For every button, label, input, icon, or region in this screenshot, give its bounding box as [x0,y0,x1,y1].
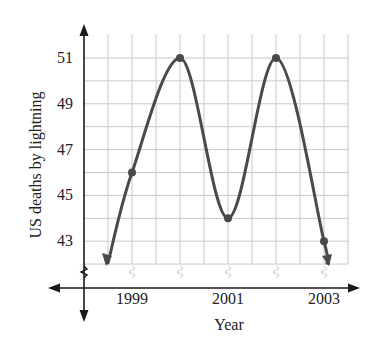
x-tick-label: 2003 [308,290,340,307]
y-axis-title: US deaths by lightning [27,91,45,238]
data-point [224,214,232,222]
x-tick-label: 1999 [116,290,148,307]
y-axis-down-arrow-icon [80,310,89,322]
data-point [272,54,280,62]
curve-path [108,58,329,264]
axis-break-icon [321,266,327,278]
x-tick-label: 2001 [212,290,244,307]
y-tick-label: 47 [57,141,73,158]
y-tick-label: 43 [57,232,73,249]
axis-break-icon [273,266,279,278]
y-axis-up-arrow-icon [80,24,89,36]
y-tick-labels: 4345474951 [57,49,73,249]
data-point [320,237,328,245]
axis-break-marks [81,266,327,278]
line-chart: 4345474951 199920012003 Year US deaths b… [0,0,373,350]
y-tick-label: 45 [57,186,73,203]
y-tick-label: 51 [57,49,73,66]
grid [84,34,348,264]
data-point [176,54,184,62]
data-point [128,169,136,177]
x-tick-labels: 199920012003 [116,290,340,307]
data-curve [102,54,332,266]
axis-break-icon [177,266,183,278]
x-axis-left-arrow-icon [48,284,60,293]
y-tick-label: 49 [57,95,73,112]
x-axis-title: Year [214,316,244,333]
axis-break-icon [225,266,231,278]
axis-break-icon [129,266,135,278]
x-axis-right-arrow-icon [348,284,360,293]
